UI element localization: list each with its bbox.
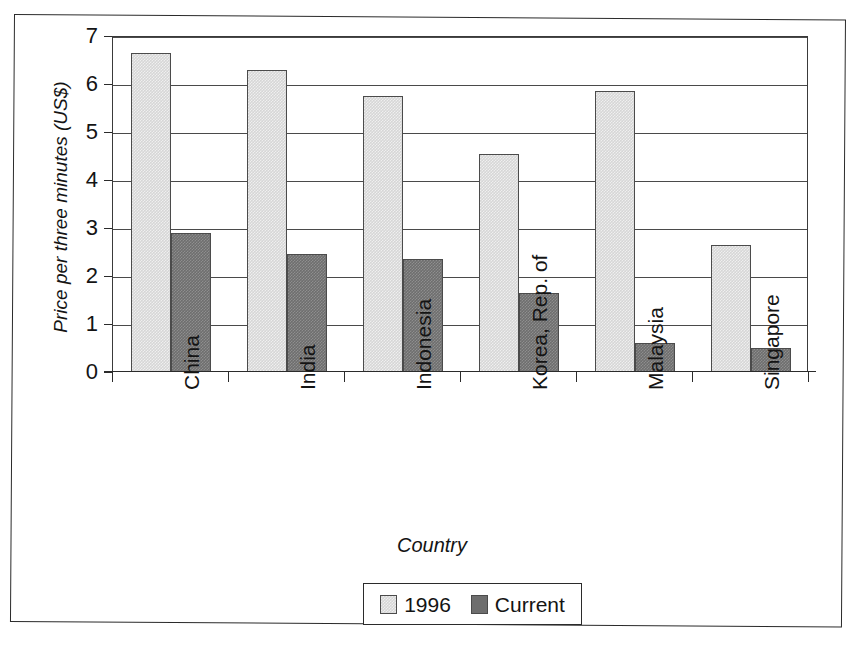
bar-1996-malaysia: [595, 91, 635, 372]
y-axis-tick-label: 6: [60, 73, 98, 95]
x-axis-label-singapore: Singapore: [760, 294, 784, 390]
plot-area: [112, 36, 808, 372]
gridline: [113, 277, 807, 278]
bar-1996-china: [131, 53, 171, 372]
chart-legend: 1996Current: [363, 583, 582, 625]
y-axis-tick-label: 1: [60, 313, 98, 335]
x-axis-tick: [692, 371, 693, 382]
gridline: [113, 37, 807, 38]
x-axis-tick: [228, 371, 229, 382]
y-axis-tick-label: 7: [60, 25, 98, 47]
gridline: [113, 85, 807, 86]
x-axis-tick: [808, 371, 809, 382]
legend-label: Current: [495, 594, 565, 615]
y-axis-tick-label: 0: [60, 361, 98, 383]
gridline: [113, 325, 807, 326]
legend-entry-1996: 1996: [380, 594, 451, 615]
y-axis-tick-label: 3: [60, 217, 98, 239]
x-axis-tick: [576, 371, 577, 382]
gridline: [113, 229, 807, 230]
legend-swatch-icon: [471, 595, 488, 614]
x-axis-label-indonesia: Indonesia: [412, 299, 436, 390]
y-axis-tick-label: 5: [60, 121, 98, 143]
x-axis-label-china: China: [180, 335, 204, 390]
x-axis-label-malaysia: Malaysia: [644, 307, 668, 390]
legend-entry-current: Current: [471, 594, 565, 615]
figure-container: Price per three minutes (US$) 01234567 C…: [0, 0, 864, 645]
y-axis-tick-label: 4: [60, 169, 98, 191]
bar-1996-singapore: [711, 245, 751, 372]
x-axis-label-korea-rep-of: Korea, Rep. of: [528, 255, 552, 390]
x-axis-label-india: India: [296, 344, 320, 390]
x-axis-title: Country: [0, 534, 864, 557]
plot-wrapper: Price per three minutes (US$) 01234567 C…: [0, 0, 864, 645]
bar-1996-indonesia: [363, 96, 403, 372]
y-axis-tick-label: 2: [60, 265, 98, 287]
x-axis-tick: [112, 371, 113, 382]
legend-label: 1996: [404, 594, 451, 615]
legend-swatch-icon: [380, 595, 397, 614]
bar-1996-korea-rep-of: [479, 154, 519, 372]
gridline: [113, 181, 807, 182]
bar-1996-india: [247, 70, 287, 372]
gridline: [113, 133, 807, 134]
x-axis-tick: [460, 371, 461, 382]
x-axis-tick: [344, 371, 345, 382]
